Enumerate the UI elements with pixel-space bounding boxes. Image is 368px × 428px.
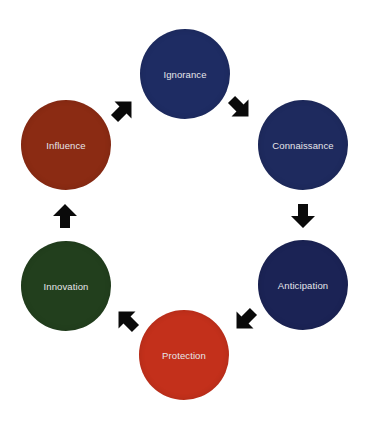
arrow-down-icon <box>290 203 316 229</box>
arrow-up-icon <box>52 203 78 229</box>
node-anticipation: Anticipation <box>258 240 348 330</box>
node-label: Connaissance <box>272 140 333 151</box>
arrow-down-right-icon <box>222 90 259 127</box>
node-connaissance: Connaissance <box>258 100 348 190</box>
node-influence: Influence <box>21 100 111 190</box>
arrow-up-right-icon <box>105 92 142 129</box>
node-label: Protection <box>162 350 206 361</box>
node-ignorance: Ignorance <box>140 29 230 119</box>
arrow-down-left-icon <box>227 302 264 339</box>
arrow-up-left-icon <box>109 302 146 339</box>
node-label: Influence <box>46 140 85 151</box>
node-label: Ignorance <box>163 69 206 80</box>
cycle-diagram: Ignorance Connaissance Anticipation Prot… <box>0 0 368 428</box>
node-label: Innovation <box>44 281 89 292</box>
node-innovation: Innovation <box>21 241 111 331</box>
node-label: Anticipation <box>278 280 328 291</box>
node-protection: Protection <box>139 310 229 400</box>
